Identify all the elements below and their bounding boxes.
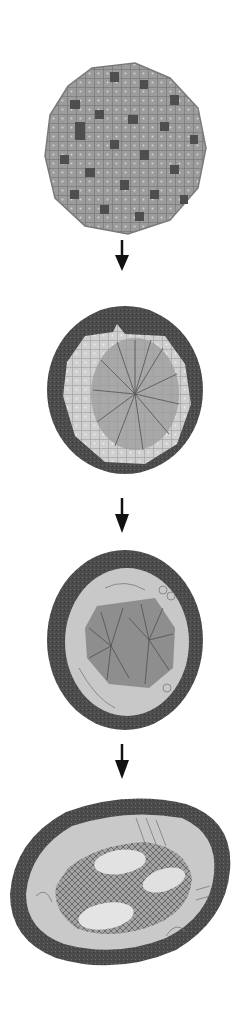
arrow-down-2 <box>112 498 132 534</box>
stage-4-three-nuclei <box>6 790 238 974</box>
arrow-down-3 <box>112 744 132 780</box>
arrow-down-icon <box>112 240 132 272</box>
stage-2-ringed-disc <box>45 304 205 476</box>
cell-cluster-illustration <box>40 60 210 236</box>
arrow-down-1 <box>112 240 132 272</box>
ringed-disc-illustration <box>45 304 205 476</box>
arrow-down-icon <box>112 744 132 780</box>
stage-3-double-radial <box>45 548 205 732</box>
three-nuclei-illustration <box>6 790 238 974</box>
double-radial-illustration <box>45 548 205 732</box>
stage-1-cellular-disc <box>40 60 210 236</box>
arrow-down-icon <box>112 498 132 534</box>
